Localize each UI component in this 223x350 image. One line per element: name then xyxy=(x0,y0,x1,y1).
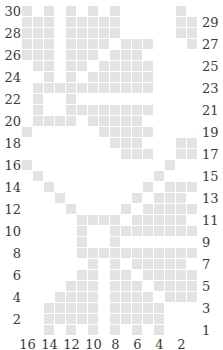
grid-cell xyxy=(165,270,175,280)
grid-cell xyxy=(55,303,65,313)
grid-cell xyxy=(44,72,54,82)
grid-cell xyxy=(33,28,43,38)
grid-cell xyxy=(132,292,142,302)
grid-cell xyxy=(22,50,32,60)
row-label-left: 10 xyxy=(3,225,21,238)
grid-cell xyxy=(77,281,87,291)
grid-cell xyxy=(176,248,186,258)
grid-cell xyxy=(143,303,153,313)
grid-cell xyxy=(176,281,186,291)
grid-cell xyxy=(99,39,109,49)
row-label-right: 5 xyxy=(202,280,222,293)
grid-cell xyxy=(132,105,142,115)
grid-cell xyxy=(77,83,87,93)
grid-cell xyxy=(132,303,142,313)
grid-cell xyxy=(88,116,98,126)
grid-cell xyxy=(88,314,98,324)
grid-cell xyxy=(132,39,142,49)
grid-cell xyxy=(176,270,186,280)
grid-cell xyxy=(121,226,131,236)
column-label: 8 xyxy=(106,338,126,350)
grid-cell xyxy=(88,292,98,302)
row-label-right: 21 xyxy=(202,104,222,117)
grid-cell xyxy=(66,314,76,324)
grid-cell xyxy=(187,292,197,302)
grid-cell xyxy=(66,303,76,313)
grid-cell xyxy=(187,204,197,214)
grid-cell xyxy=(110,28,120,38)
grid-cell xyxy=(110,127,120,137)
grid-cell xyxy=(77,314,87,324)
grid-cell xyxy=(66,94,76,104)
grid-cell xyxy=(187,226,197,236)
grid-cell xyxy=(143,127,153,137)
grid-cell xyxy=(77,39,87,49)
grid-cell xyxy=(99,127,109,137)
column-label: 10 xyxy=(84,338,104,350)
grid-cell xyxy=(176,17,186,27)
grid-cell xyxy=(176,259,186,269)
grid-cell xyxy=(110,61,120,71)
grid-cell xyxy=(132,116,142,126)
grid-cell xyxy=(132,83,142,93)
grid-cell xyxy=(33,116,43,126)
row-label-right: 1 xyxy=(202,324,222,337)
grid-cell xyxy=(143,105,153,115)
grid-cell xyxy=(143,215,153,225)
grid-cell xyxy=(121,204,131,214)
grid-cell xyxy=(110,325,120,335)
grid-cell xyxy=(187,39,197,49)
grid-cell xyxy=(132,325,142,335)
grid-cell xyxy=(44,83,54,93)
grid-cell xyxy=(99,72,109,82)
grid-cell xyxy=(132,138,142,148)
grid-cell xyxy=(176,226,186,236)
grid-cell xyxy=(110,292,120,302)
grid-cell xyxy=(132,149,142,159)
row-label-left: 20 xyxy=(3,115,21,128)
row-label-left: 24 xyxy=(3,71,21,84)
grid-cell xyxy=(143,226,153,236)
grid-cell xyxy=(121,72,131,82)
grid-cell xyxy=(143,248,153,258)
grid-cell xyxy=(33,17,43,27)
grid-cell xyxy=(121,61,131,71)
row-label-left: 6 xyxy=(3,269,21,282)
grid-cell xyxy=(176,138,186,148)
row-label-right: 15 xyxy=(202,170,222,183)
grid-cell xyxy=(143,83,153,93)
grid-cell xyxy=(77,303,87,313)
grid-cell xyxy=(77,292,87,302)
row-label-right: 27 xyxy=(202,38,222,51)
grid-cell xyxy=(110,83,120,93)
grid-cell xyxy=(143,72,153,82)
grid-cell xyxy=(88,105,98,115)
grid-cell xyxy=(110,281,120,291)
grid-cell xyxy=(165,292,175,302)
grid-cell xyxy=(33,83,43,93)
grid-cell xyxy=(22,127,32,137)
grid-cell xyxy=(165,160,175,170)
grid-cell xyxy=(143,204,153,214)
grid-cell xyxy=(121,303,131,313)
grid-cell xyxy=(187,149,197,159)
grid-cell xyxy=(132,127,142,137)
grid-cell xyxy=(77,17,87,27)
grid-cell xyxy=(187,182,197,192)
grid-cell xyxy=(110,237,120,247)
row-label-left: 8 xyxy=(3,247,21,260)
grid-cell xyxy=(132,281,142,291)
grid-cell xyxy=(66,116,76,126)
grid-cell xyxy=(154,171,164,181)
grid-cell xyxy=(99,215,109,225)
grid-cell xyxy=(121,281,131,291)
grid-cell xyxy=(187,281,197,291)
grid-cell xyxy=(176,292,186,302)
grid-cell xyxy=(88,325,98,335)
grid-cell xyxy=(121,50,131,60)
grid-cell xyxy=(33,61,43,71)
row-label-left: 16 xyxy=(3,159,21,172)
grid-cell xyxy=(121,314,131,324)
grid-cell xyxy=(88,248,98,258)
grid-cell xyxy=(187,248,197,258)
